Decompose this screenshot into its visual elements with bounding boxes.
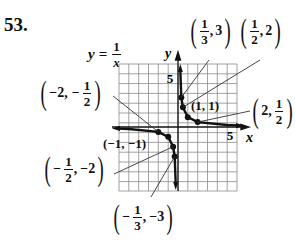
label-point-2-half: (2,12) <box>250 94 295 128</box>
y-tick-5: 5 <box>167 71 174 86</box>
label-point-third-3: (13,3) <box>188 14 234 48</box>
label-point-negthird-neg3: (−13,−3) <box>111 200 176 234</box>
x-axis-label: x <box>245 130 253 145</box>
figure: 53. y = 1x <box>0 0 295 249</box>
label-point-neghalf-neg2: (−12,−2) <box>42 152 107 186</box>
label-point-neg2-neghalf: (−2,−12) <box>38 76 104 110</box>
label-point-1-1: (1, 1) <box>191 99 219 112</box>
x-tick-5: 5 <box>227 128 234 143</box>
y-axis-label: y <box>163 46 172 61</box>
label-point-neg1-neg1: (−1, −1) <box>103 137 146 150</box>
label-point-half-2: (12,2) <box>238 14 284 48</box>
